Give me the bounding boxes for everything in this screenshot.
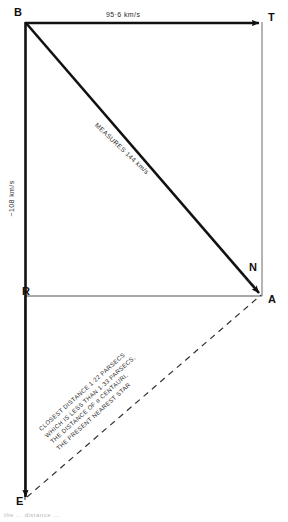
vertex-label-t: T bbox=[268, 12, 275, 23]
vertex-label-e: E bbox=[16, 496, 23, 507]
diagram-svg bbox=[0, 0, 288, 522]
edge-label-top: 95·6 km/s bbox=[106, 11, 140, 18]
vertex-label-n: N bbox=[249, 262, 257, 273]
edge-label-left: ~108 km/s bbox=[8, 180, 15, 216]
vector-B-to-A bbox=[26, 23, 259, 293]
bottom-caption: the ... distance ... bbox=[4, 512, 60, 518]
dashed-line-E-to-A bbox=[27, 295, 261, 497]
vertex-label-r: R bbox=[22, 286, 30, 297]
vertex-label-a: A bbox=[268, 294, 276, 305]
vertex-label-b: B bbox=[14, 7, 22, 18]
diagram-canvas: B T R A N E 95·6 km/s ~108 km/s MEASURES… bbox=[0, 0, 288, 522]
